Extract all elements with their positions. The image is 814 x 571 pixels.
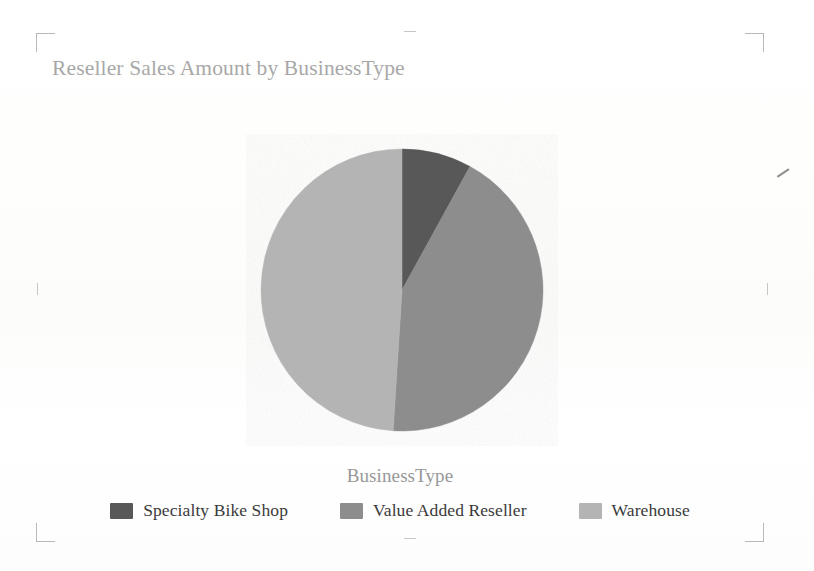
pie-plot-area xyxy=(36,33,764,463)
edge-tick-top xyxy=(404,31,416,32)
legend-item-label: Value Added Reseller xyxy=(373,500,527,521)
legend-item-label: Warehouse xyxy=(612,500,690,521)
legend-item[interactable]: Value Added Reseller xyxy=(340,500,527,521)
pie-chart-container: Reseller Sales Amount by BusinessType Bu… xyxy=(36,33,764,541)
legend-item[interactable]: Specialty Bike Shop xyxy=(110,500,288,521)
pie-slice-group xyxy=(261,149,543,431)
scanned-page: Reseller Sales Amount by BusinessType Bu… xyxy=(0,0,814,571)
edge-tick-right xyxy=(767,283,768,295)
legend-item[interactable]: Warehouse xyxy=(579,500,690,521)
scan-artifact-mark xyxy=(777,168,789,177)
pie-svg xyxy=(36,33,764,463)
pie-slice[interactable] xyxy=(261,149,402,431)
legend-swatch-icon xyxy=(110,503,133,519)
legend-swatch-icon xyxy=(579,503,602,519)
legend-item-label: Specialty Bike Shop xyxy=(143,500,288,521)
category-axis-title: BusinessType xyxy=(36,465,764,487)
chart-legend: Specialty Bike ShopValue Added ResellerW… xyxy=(36,500,764,521)
legend-swatch-icon xyxy=(340,503,363,519)
